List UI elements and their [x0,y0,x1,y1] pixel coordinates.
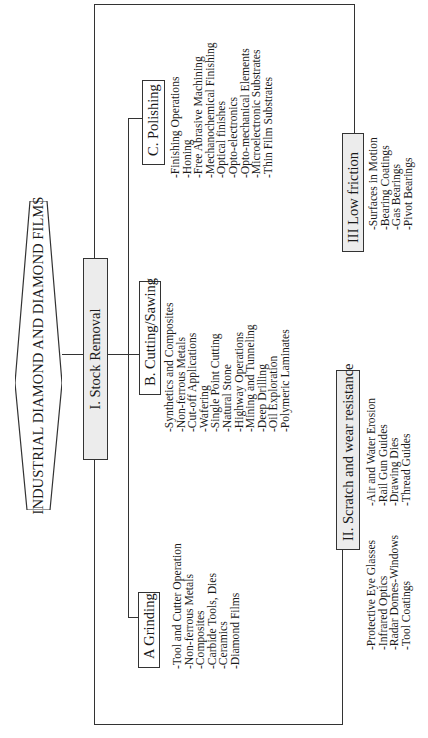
list-item: -Diamond Films [230,543,242,669]
connector-to-polishing [128,118,142,119]
connector-stock-to-sub [108,354,128,355]
grinding-items: -Tool and Cutter Operation -Non-ferrous … [172,543,242,669]
connector-to-cutting [128,354,139,355]
diagram-title: INDUSTRIAL DIAMOND AND DIAMOND FILMS [15,201,62,510]
connector-title-to-stock [62,354,83,355]
frame-line-bottom-rise [342,550,343,725]
list-item: -Tool and Cutter Operation [172,543,184,669]
connector-to-grinding [128,617,138,618]
title-hexagon: INDUSTRIAL DIAMOND AND DIAMOND FILMS [15,201,62,510]
cutting-sawing-items: -Synthetics and Composites -Non-ferrous … [164,303,292,432]
list-item: -Opto-electronics [228,42,240,178]
scratch-wear-items-col1: -Protective Eye Glasses -Infrared Optics… [366,535,412,650]
list-item: -Tool Coatings [401,535,413,650]
frame-line-bottom [94,724,343,725]
list-item: -Protective Eye Glasses [366,535,378,650]
list-item: -Thin Film Substrates [263,42,275,178]
frame-line-top [94,4,355,5]
frame-line-top-drop [354,4,355,133]
scratch-wear-items-col2: -Air and Water Erosion -Rail Gun Guides … [366,398,412,506]
polishing-items: -Finishing Operations -Honing -Free Abra… [170,42,274,178]
low-friction-items: -Surfaces in Motion -Bearing Coatings -G… [368,137,414,230]
connector-sub-spine [128,118,129,618]
list-item: -Natural Stone [222,303,234,432]
list-item: -Finishing Operations [170,42,182,178]
list-item: -Air and Water Erosion [366,398,378,506]
low-friction-box: III Low friction [342,133,364,252]
scratch-wear-box: II. Scratch and wear resistance [336,370,360,550]
diagram-canvas: INDUSTRIAL DIAMOND AND DIAMOND FILMS I. … [0,0,428,738]
grinding-box: A Grinding [138,592,160,668]
polishing-box: C. Polishing [142,80,165,165]
stock-removal-box: I. Stock Removal [83,258,108,460]
list-item: -Polymeric Laminates [280,303,292,432]
list-item: -Synthetics and Composites [164,303,176,432]
list-item: -Surfaces in Motion [368,137,380,230]
list-item: -Thread Guides [401,398,413,506]
list-item: -Pivot Bearings [403,137,415,230]
list-item: -Mining and Tunneling [245,303,257,432]
list-item: -Microelectronic Substrates [251,42,263,178]
cutting-sawing-box: B. Cutting/Sawing [139,281,161,395]
